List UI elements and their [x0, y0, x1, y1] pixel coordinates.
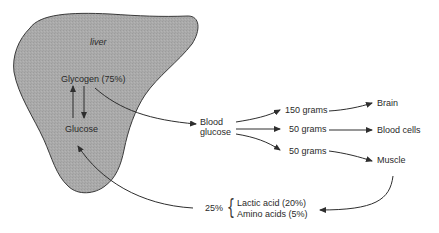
blood-cells-label: Blood cells	[377, 125, 421, 136]
blood-glucose-label-line2: glucose	[200, 127, 231, 138]
liver-label: liver	[90, 37, 107, 48]
glucose-label: Glucose	[65, 124, 98, 135]
blood-glucose-to-brain-arrow	[236, 110, 280, 122]
blood-glucose-to-muscle-amount-arrow	[236, 134, 280, 150]
brain-label: Brain	[377, 98, 398, 109]
brain-arrow	[329, 103, 372, 111]
muscle-arrow	[329, 151, 372, 161]
muscle-amount-label: 50 grams	[289, 146, 327, 157]
amino-acids-label: Amino acids (5%)	[237, 209, 308, 220]
muscle-to-lactic-acid-arrow	[320, 176, 393, 210]
return-percent-label: 25%	[205, 203, 223, 214]
brain-amount-label: 150 grams	[285, 105, 328, 116]
lactic-acid-label: Lactic acid (20%)	[237, 198, 306, 209]
brace-symbol: {	[227, 196, 235, 218]
muscle-label: Muscle	[377, 155, 406, 166]
glucose-metabolism-diagram: liver Glycogen (75%) Glucose Blood gluco…	[0, 0, 439, 233]
glycogen-label: Glycogen (75%)	[61, 74, 126, 85]
blood-cells-amount-label: 50 grams	[289, 124, 327, 135]
